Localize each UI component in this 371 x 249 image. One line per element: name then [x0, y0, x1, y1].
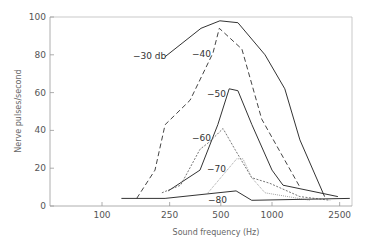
x-axis-title: Sound frequency (Hz) — [173, 228, 260, 237]
y-tick-label: 20 — [35, 163, 47, 173]
label-minus-70: −70 — [207, 164, 226, 174]
curves — [121, 21, 349, 201]
x-tick-label: 250 — [161, 210, 178, 220]
label-minus-60: −60 — [192, 133, 211, 143]
nerve-response-chart: 020406080100 10025050010002500 Nerve pul… — [0, 0, 371, 249]
y-tick-label: 40 — [35, 125, 47, 135]
y-tick-label: 100 — [29, 12, 46, 22]
y-tick-label: 80 — [35, 50, 47, 60]
label-minus-80: −80 — [208, 195, 227, 205]
x-tick-label: 1000 — [261, 210, 284, 220]
label-minus-40: −40 — [192, 49, 211, 59]
x-tick-label: 2500 — [328, 210, 351, 220]
x-tick-label: 100 — [93, 210, 110, 220]
plot-frame — [50, 17, 352, 206]
y-tick-label: 0 — [40, 201, 46, 211]
y-tick-label: 60 — [35, 88, 47, 98]
label-minus-30: −30 db — [133, 51, 167, 61]
y-axis-title: Nerve pulses/second — [14, 69, 23, 152]
label-minus-50: −50 — [207, 89, 226, 99]
x-tick-label: 500 — [212, 210, 229, 220]
